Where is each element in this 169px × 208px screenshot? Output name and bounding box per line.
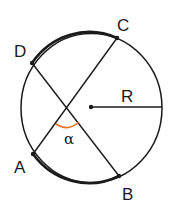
label-r: R (121, 87, 133, 106)
circle-diagram: C D A B R α (0, 0, 169, 208)
label-c: C (117, 16, 129, 35)
point-d (30, 61, 34, 65)
arc-dc (32, 32, 117, 63)
center-point (89, 105, 93, 109)
label-a: A (14, 158, 26, 177)
point-b (117, 174, 121, 178)
label-b: B (122, 185, 133, 204)
angle-arc (56, 122, 79, 128)
point-a (31, 152, 35, 156)
label-alpha: α (64, 130, 74, 148)
label-d: D (14, 42, 26, 61)
point-c (115, 36, 119, 40)
chord-db (32, 63, 119, 176)
chord-ac (33, 38, 117, 154)
